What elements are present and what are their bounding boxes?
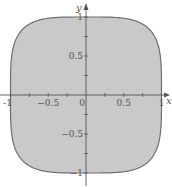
x-tick-label: −0.5 <box>37 98 59 108</box>
x-axis-label: x <box>166 95 172 106</box>
x-tick-label: -1 <box>3 98 12 108</box>
y-axis-arrow-icon <box>84 3 89 10</box>
y-axis-label: y <box>75 2 82 13</box>
y-tick-label: −1 <box>70 168 83 178</box>
y-tick-label: −0.5 <box>61 129 83 139</box>
x-tick-label: 0 <box>79 98 85 108</box>
x-tick-label: 0.5 <box>117 98 132 108</box>
y-tick-label: 0.5 <box>69 51 84 61</box>
superellipse-figure: -1−0.500.51 10.5−0.5−1 x y <box>0 0 172 187</box>
plot-canvas: -1−0.500.51 10.5−0.5−1 x y <box>0 0 172 187</box>
x-tick-label: 1 <box>159 98 165 108</box>
y-tick-label: 1 <box>77 12 83 22</box>
